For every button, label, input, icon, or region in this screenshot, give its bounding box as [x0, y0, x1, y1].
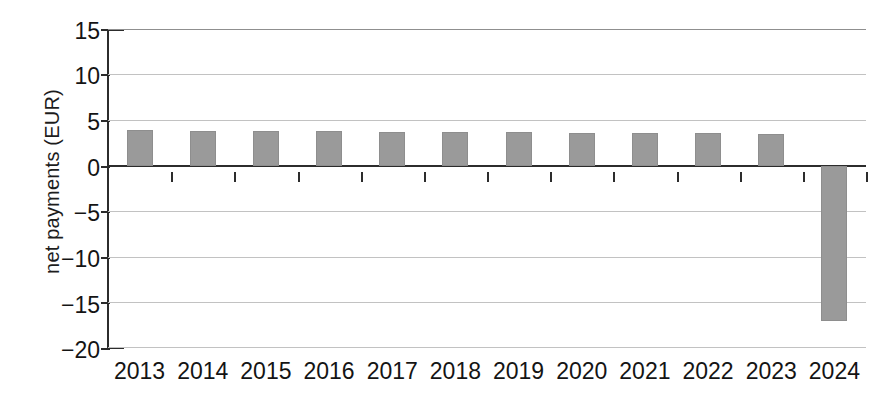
y-tick-label-neg5: −5 — [40, 202, 100, 225]
x-tick-label-2018: 2018 — [420, 358, 490, 384]
x-tick-mark-2 — [298, 172, 300, 182]
gridline-10 — [108, 74, 866, 75]
x-tick-label-2022: 2022 — [673, 358, 743, 384]
plot-area — [108, 29, 866, 348]
x-tick-mark-1 — [234, 172, 236, 182]
x-tick-label-2020: 2020 — [547, 358, 617, 384]
y-tick-label-neg10: −10 — [40, 248, 100, 271]
x-tick-mark-6 — [550, 172, 552, 182]
bar-2013[interactable] — [127, 130, 153, 166]
y-axis-tick-labels: 15 10 5 0 −5 −10 −15 −20 — [38, 0, 100, 412]
gridline-15 — [108, 29, 866, 30]
bar-2015[interactable] — [253, 131, 279, 166]
bar-2014[interactable] — [190, 131, 216, 166]
y-tick-label-5: 5 — [40, 111, 100, 134]
zero-baseline — [108, 165, 866, 167]
x-tick-mark-11 — [866, 172, 868, 182]
bar-2021[interactable] — [632, 133, 658, 166]
y-tick-label-0: 0 — [40, 157, 100, 180]
x-tick-label-2023: 2023 — [736, 358, 806, 384]
x-tick-label-2017: 2017 — [357, 358, 427, 384]
y-tick-label-10: 10 — [40, 65, 100, 88]
y-tick-label-neg15: −15 — [40, 294, 100, 317]
gridline-neg15 — [108, 302, 866, 303]
gridline-neg20 — [108, 347, 866, 348]
bar-2023[interactable] — [758, 134, 784, 166]
x-tick-mark-4 — [424, 172, 426, 182]
bar-2024[interactable] — [821, 166, 847, 321]
y-tick-label-15: 15 — [40, 20, 100, 43]
y-tick-label-neg20: −20 — [40, 339, 100, 362]
x-tick-label-2013: 2013 — [105, 358, 175, 384]
x-tick-mark-5 — [487, 172, 489, 182]
bar-2020[interactable] — [569, 133, 595, 166]
x-tick-mark-7 — [613, 172, 615, 182]
bar-2022[interactable] — [695, 133, 721, 165]
x-tick-mark-0 — [171, 172, 173, 182]
x-tick-label-2014: 2014 — [168, 358, 238, 384]
gridline-5 — [108, 120, 866, 121]
x-tick-label-2019: 2019 — [484, 358, 554, 384]
gridline-neg10 — [108, 257, 866, 258]
bar-chart: net payments (EUR) 15 10 5 0 −5 −10 −15 … — [0, 0, 871, 412]
bar-2016[interactable] — [316, 131, 342, 166]
x-tick-mark-9 — [740, 172, 742, 182]
x-tick-label-2021: 2021 — [610, 358, 680, 384]
y-tick-mark-neg20 — [101, 348, 110, 350]
x-tick-mark-3 — [361, 172, 363, 182]
bar-2017[interactable] — [379, 132, 405, 166]
gridline-neg5 — [108, 211, 866, 212]
x-tick-label-2016: 2016 — [294, 358, 364, 384]
x-tick-mark-10 — [803, 172, 805, 182]
bar-2019[interactable] — [506, 132, 532, 165]
x-tick-label-2024: 2024 — [799, 358, 869, 384]
bar-2018[interactable] — [442, 132, 468, 166]
x-tick-mark-8 — [677, 172, 679, 182]
x-tick-label-2015: 2015 — [231, 358, 301, 384]
